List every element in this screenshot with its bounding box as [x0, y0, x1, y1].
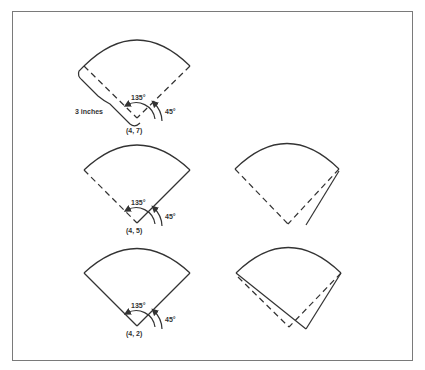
sector-panel-middle-right: [235, 144, 339, 226]
sector-right-edge-solid: [137, 170, 190, 223]
sector-left-edge-solid: [236, 273, 306, 329]
apex-coordinate-label: (4, 7): [126, 127, 142, 135]
sector-left-edge-dashed: [235, 169, 288, 224]
sector-right-edge-dashed: [137, 66, 190, 118]
sector-arc: [84, 40, 190, 66]
sector-panel-middle-left: 135° 45° (4, 5): [84, 145, 190, 235]
angle-arc-135: [127, 311, 155, 327]
sector-arc: [235, 144, 339, 170]
sector-right-edge-solid: [306, 273, 341, 329]
sector-arc: [84, 145, 190, 170]
sector-panel-bottom-right: [236, 248, 341, 330]
angle-label-45: 45°: [165, 213, 176, 220]
angle-label-45: 45°: [165, 108, 176, 115]
angle-label-135: 135°: [131, 199, 146, 206]
sector-arc: [84, 249, 190, 274]
sector-left-edge-solid: [84, 273, 137, 326]
apex-coordinate-label: (4, 2): [126, 330, 142, 338]
angle-label-135: 135°: [131, 94, 146, 101]
sector-panel-bottom-left: 135° 45° (4, 2): [84, 249, 190, 339]
apex-coordinate-label: (4, 5): [126, 227, 142, 235]
sector-right-edge-solid: [137, 273, 190, 326]
dimension-label: 3 inches: [75, 108, 103, 115]
sector-right-edge-dashed: [288, 169, 339, 224]
sector-right-edge-dashed: [289, 273, 341, 327]
angle-label-45: 45°: [165, 316, 176, 323]
sector-left-edge-dashed: [84, 170, 137, 223]
sector-left-edge-dashed: [238, 277, 289, 327]
angle-arc-135: [127, 208, 155, 224]
angle-label-135: 135°: [131, 302, 146, 309]
diagram-canvas: 135° 45° (4, 7) 3 inches 135° 45° (4, 5)…: [0, 0, 425, 370]
sector-panel-top-left: 135° 45° (4, 7) 3 inches: [75, 40, 190, 135]
sector-arc: [236, 248, 341, 274]
rotated-edge-solid: [306, 171, 339, 225]
